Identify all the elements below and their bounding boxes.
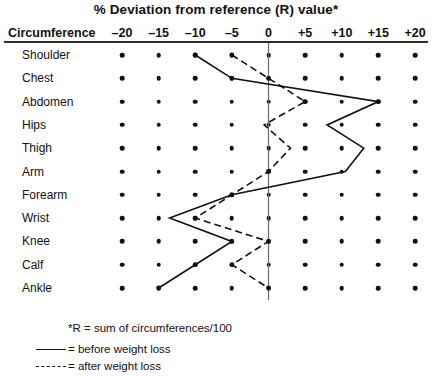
x-tick-5: +5 — [298, 26, 312, 40]
grid-dot — [413, 76, 418, 81]
x-tick-20: +20 — [404, 26, 425, 40]
grid-dot — [413, 216, 418, 221]
grid-dot — [266, 53, 271, 58]
x-tick-0: 0 — [265, 26, 272, 40]
grid-dot — [156, 169, 161, 174]
grid-dot — [193, 216, 198, 221]
grid-dot — [230, 262, 235, 267]
footnote-r-definition: *R = sum of circumferences/100 — [68, 322, 232, 334]
grid-dot — [120, 76, 125, 81]
chart-title: % Deviation from reference (R) value* — [0, 2, 432, 17]
grid-dot — [303, 262, 308, 267]
grid-dot — [230, 286, 235, 291]
legend-label-after: = after weight loss — [68, 360, 161, 372]
row-header-circumference: Circumference — [8, 26, 96, 40]
grid-dot — [376, 76, 381, 81]
legend-solid-line-icon — [36, 349, 66, 350]
row-label-shoulder: Shoulder — [22, 48, 70, 62]
row-label-calf: Calf — [22, 258, 43, 272]
grid-dot — [156, 53, 161, 58]
legend-dashed-line-icon — [36, 366, 66, 367]
grid-dot — [156, 146, 161, 151]
grid-dot — [303, 216, 308, 221]
grid-dot — [120, 99, 125, 104]
grid-dot — [156, 123, 161, 128]
grid-dot — [120, 123, 125, 128]
grid-dot — [266, 146, 271, 151]
grid-dot — [230, 239, 235, 244]
grid-dot — [303, 123, 308, 128]
grid-dot — [230, 146, 235, 151]
grid-dot — [376, 169, 381, 174]
grid-dot — [230, 169, 235, 174]
grid-dot — [193, 169, 198, 174]
grid-dot — [230, 76, 235, 81]
row-label-abdomen: Abdomen — [22, 95, 73, 109]
grid-dot — [339, 286, 344, 291]
grid-dot — [413, 262, 418, 267]
grid-dot — [303, 76, 308, 81]
grid-dot — [303, 146, 308, 151]
x-tick-15: +15 — [368, 26, 389, 40]
grid-dot — [339, 76, 344, 81]
grid-dot — [266, 239, 271, 244]
grid-dot — [413, 169, 418, 174]
x-tick-neg10: –10 — [185, 26, 206, 40]
grid-dot — [230, 216, 235, 221]
grid-dot — [156, 193, 161, 198]
grid-dot — [193, 146, 198, 151]
grid-dot — [156, 99, 161, 104]
grid-dot — [193, 53, 198, 58]
legend-entry-after: = after weight loss — [0, 358, 432, 374]
grid-dot — [120, 262, 125, 267]
grid-dot — [303, 53, 308, 58]
grid-dot — [156, 239, 161, 244]
grid-dot — [339, 99, 344, 104]
grid-dot — [376, 239, 381, 244]
grid-dot — [120, 169, 125, 174]
grid-dot — [120, 146, 125, 151]
grid-dot — [376, 53, 381, 58]
grid-dot — [156, 286, 161, 291]
row-label-wrist: Wrist — [22, 211, 49, 225]
x-tick-neg15: –15 — [148, 26, 169, 40]
grid-dot — [193, 99, 198, 104]
grid-dot — [339, 239, 344, 244]
row-label-chest: Chest — [22, 71, 53, 85]
grid-dot — [266, 99, 271, 104]
grid-dot — [266, 123, 271, 128]
grid-dot — [413, 193, 418, 198]
grid-dot — [120, 216, 125, 221]
grid-dot — [120, 53, 125, 58]
grid-dot — [156, 262, 161, 267]
grid-dot — [230, 53, 235, 58]
row-label-hips: Hips — [22, 118, 46, 132]
grid-dot — [413, 99, 418, 104]
grid-dot — [193, 76, 198, 81]
legend-entry-before: = before weight loss — [0, 341, 432, 357]
deviation-chart: % Deviation from reference (R) value* Ci… — [0, 0, 432, 376]
grid-dot — [303, 286, 308, 291]
x-tick-neg20: –20 — [112, 26, 133, 40]
grid-dot — [303, 193, 308, 198]
grid-dot — [266, 169, 271, 174]
series-line-after-weight-loss — [195, 55, 305, 288]
grid-dot — [376, 262, 381, 267]
legend-label-before: = before weight loss — [68, 343, 171, 355]
row-label-arm: Arm — [22, 165, 44, 179]
grid-dot — [120, 193, 125, 198]
grid-dot — [230, 193, 235, 198]
grid-dot — [230, 99, 235, 104]
grid-dot — [193, 286, 198, 291]
row-label-ankle: Ankle — [22, 281, 52, 295]
grid-dot — [376, 123, 381, 128]
grid-dot — [413, 286, 418, 291]
grid-dot — [376, 99, 381, 104]
grid-dot — [376, 286, 381, 291]
row-label-knee: Knee — [22, 234, 50, 248]
row-label-thigh: Thigh — [22, 141, 52, 155]
x-tick-neg5: –5 — [225, 26, 239, 40]
grid-dot — [230, 123, 235, 128]
grid-dot — [266, 286, 271, 291]
grid-dot — [156, 216, 161, 221]
